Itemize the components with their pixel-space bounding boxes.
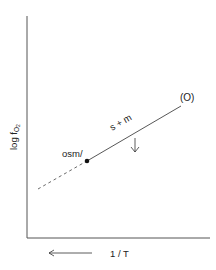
reaction-line xyxy=(87,106,181,161)
invariant-point-label: osm/ xyxy=(62,148,83,159)
svg-text:log fO2: log fO2 xyxy=(8,124,21,150)
line-end-label: (O) xyxy=(180,92,194,103)
y-axis-label: log fO2 xyxy=(8,124,21,150)
field-label: s + m xyxy=(108,111,134,132)
invariant-point xyxy=(85,159,90,164)
left-arrow-icon xyxy=(49,250,92,256)
down-arrow-icon xyxy=(131,138,139,152)
phase-diagram: (O) s + m osm/ log fO2 1 / T xyxy=(0,0,216,270)
dashed-extension-line xyxy=(38,162,86,190)
x-axis-label: 1 / T xyxy=(110,248,129,259)
